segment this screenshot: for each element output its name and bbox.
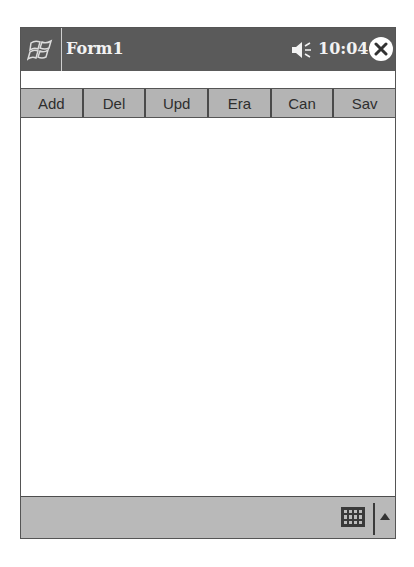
delete-button[interactable]: Del [84,89,147,117]
menu-strip [21,71,395,88]
pocketpc-window: Form1 10:04 Add Del Upd Era Can Sav [20,27,396,539]
speaker-icon[interactable] [291,40,313,60]
close-icon [374,42,388,56]
clock[interactable]: 10:04 [318,39,368,58]
start-button[interactable] [21,28,62,71]
cancel-button[interactable]: Can [272,89,335,117]
menu-bar [21,496,395,538]
toolbar: Add Del Upd Era Can Sav [21,88,395,118]
add-button[interactable]: Add [21,89,84,117]
keyboard-icon[interactable] [341,507,365,527]
form-content-area [21,118,395,498]
save-button[interactable]: Sav [334,89,395,117]
update-button[interactable]: Upd [146,89,209,117]
windows-flag-icon [27,37,55,63]
divider [373,503,375,535]
title-bar: Form1 10:04 [21,28,395,71]
up-arrow-icon[interactable] [380,513,390,520]
erase-button[interactable]: Era [209,89,272,117]
close-button[interactable] [369,37,393,61]
window-title: Form1 [66,39,124,58]
